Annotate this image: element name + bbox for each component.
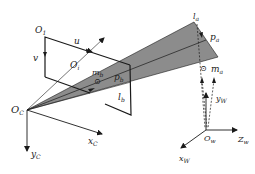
label-zw: Zw [237,135,250,145]
label-xc: xC [88,136,98,147]
label-yw: yW [215,94,228,104]
label-o1: O1 [35,25,46,36]
label-ow: Ow [204,134,217,144]
label-v: v [33,53,38,63]
label-yc: yC [30,149,41,160]
label-la: la [193,12,200,22]
circled-dot-a: ⊙ [200,64,207,73]
label-oc: OC [11,104,24,116]
label-oi: Oi [70,60,79,71]
label-mb: mb [92,68,104,78]
label-pa: pa [210,32,220,43]
circled-dot-b: ⊙ [94,77,101,86]
label-lb: lb [118,92,125,103]
label-u: u [74,36,80,46]
label-xw: xW [179,154,191,164]
projection-diagram: ⊙ ⊙ O1 u v Oi mb pb lb la pa ma OC xC yC… [0,0,255,174]
label-ma: ma [211,64,224,75]
